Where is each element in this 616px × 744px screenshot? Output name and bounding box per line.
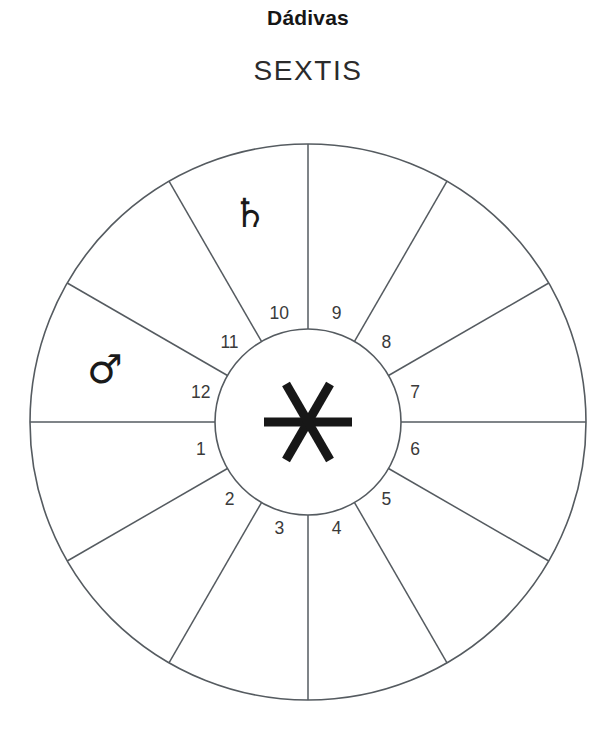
house-number-11: 11	[220, 332, 238, 352]
sextile-aspect-icon	[264, 384, 352, 460]
house-number-1: 1	[196, 439, 206, 459]
house-number-2: 2	[225, 489, 235, 509]
house-number-6: 6	[410, 439, 420, 459]
house-wheel-svg: 123456789101112 ♄♂	[0, 0, 616, 744]
house-divider	[67, 469, 227, 562]
house-divider	[355, 181, 448, 341]
house-number-10: 10	[270, 303, 290, 323]
house-number-3: 3	[274, 518, 284, 538]
chart-page: Dádivas SEXTIS 123456789101112 ♄♂	[0, 0, 616, 744]
mars-glyph: ♂	[87, 346, 123, 392]
house-number-12: 12	[191, 382, 210, 402]
house-number-5: 5	[382, 489, 392, 509]
house-number-9: 9	[332, 303, 342, 323]
house-number-4: 4	[332, 518, 342, 538]
house-number-8: 8	[382, 332, 392, 352]
saturn-glyph: ♄	[232, 190, 268, 236]
house-divider	[389, 283, 549, 376]
house-number-7: 7	[410, 382, 420, 402]
house-divider	[169, 503, 262, 663]
house-divider	[389, 469, 549, 562]
planet-glyph-group: ♄♂	[87, 190, 268, 392]
house-divider	[355, 503, 448, 663]
house-wheel: 123456789101112 ♄♂	[0, 0, 616, 744]
